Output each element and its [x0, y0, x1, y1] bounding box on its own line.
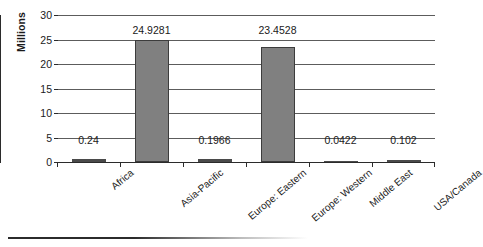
y-tick-label: 15 — [28, 84, 52, 94]
bar-usa-canada[interactable] — [387, 160, 421, 162]
bar-africa[interactable] — [72, 159, 106, 162]
bars-layer: 0.24 24.9281 0.1966 23.4528 0.0422 — [57, 15, 435, 162]
bar-slot-africa: 0.24 — [57, 15, 120, 162]
x-tick-label-europe-eastern: Europe: Eastern — [246, 167, 308, 222]
bar-slot-middle-east: 0.0422 — [309, 15, 372, 162]
y-tick-label: 0 — [28, 157, 52, 167]
y-tick-label: 20 — [28, 59, 52, 69]
x-tick-label-asia-pacific: Asia-Pacific — [178, 167, 225, 209]
x-tick-label-usa-canada: USA/Canada — [432, 167, 483, 213]
plot-area: 0.24 24.9281 0.1966 23.4528 0.0422 — [57, 15, 435, 162]
bar-europe-western[interactable] — [261, 47, 295, 162]
bar-value-label: 0.1966 — [198, 134, 230, 146]
bar-slot-europe-western: 23.4528 — [246, 15, 309, 162]
bar-asia-pacific[interactable] — [135, 40, 169, 162]
y-axis-tick-labels: 30 25 20 15 10 5 0 — [28, 0, 52, 247]
bar-middle-east[interactable] — [324, 161, 358, 162]
bar-slot-usa-canada: 0.102 — [372, 15, 435, 162]
x-tick-label-middle-east: Middle East — [367, 167, 414, 209]
y-tick-label: 25 — [28, 35, 52, 45]
bar-slot-asia-pacific: 24.9281 — [120, 15, 183, 162]
bottom-divider — [8, 237, 308, 239]
x-axis-category-labels: Africa Asia-Pacific Europe: Eastern Euro… — [57, 167, 435, 237]
bar-slot-europe-eastern: 0.1966 — [183, 15, 246, 162]
bar-value-label: 0.0422 — [324, 134, 356, 146]
bar-value-label: 23.4528 — [259, 24, 297, 36]
bar-value-label: 24.9281 — [133, 24, 171, 36]
y-tick-label: 10 — [28, 108, 52, 118]
bar-europe-eastern[interactable] — [198, 159, 232, 162]
y-tick-label: 5 — [28, 133, 52, 143]
bar-value-label: 0.102 — [390, 134, 416, 146]
y-axis-title: Millions — [14, 0, 28, 72]
y-axis-line — [0, 15, 1, 163]
x-tick-label-europe-western: Europe: Western — [310, 167, 374, 224]
x-tick-label-africa: Africa — [109, 167, 136, 192]
bar-value-label: 0.24 — [78, 134, 98, 146]
y-tick-label: 30 — [28, 10, 52, 20]
